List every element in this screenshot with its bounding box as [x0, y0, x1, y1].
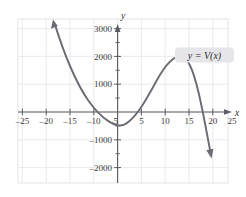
x-tick-label-15: 15	[185, 116, 195, 126]
y-tick-label-2000: 2000	[94, 52, 113, 62]
y-tick-label-3000: 3000	[94, 24, 113, 34]
x-tick-label-20: 20	[208, 116, 218, 126]
curve-label: y = V(x)	[187, 50, 222, 62]
x-tick-label--20: –20	[38, 116, 53, 126]
x-tick-label--15: –15	[62, 116, 77, 126]
y-tick-label--2000: –2000	[89, 163, 113, 173]
x-tick-label-5: 5	[139, 116, 144, 126]
plot-svg: –25 –20 –15 –10 –5 5 10 15 20 25 3000 20…	[0, 0, 246, 197]
graph-figure: –25 –20 –15 –10 –5 5 10 15 20 25 3000 20…	[0, 0, 246, 197]
x-tick-label--10: –10	[86, 116, 101, 126]
x-tick-label--25: –25	[15, 116, 30, 126]
y-tick-label--1000: –1000	[89, 135, 113, 145]
plot-background	[18, 19, 228, 183]
y-tick-label-1000: 1000	[94, 79, 113, 89]
x-axis-name: x	[234, 108, 240, 118]
y-axis-name: y	[120, 11, 126, 21]
x-tick-label-10: 10	[161, 116, 171, 126]
